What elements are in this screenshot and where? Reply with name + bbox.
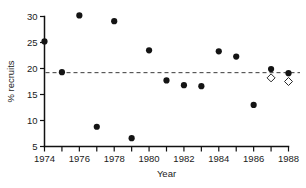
data-point-open-diamond bbox=[267, 74, 275, 82]
data-point-filled bbox=[146, 47, 152, 53]
data-point-filled bbox=[41, 38, 47, 44]
data-point-filled bbox=[129, 135, 135, 141]
y-axis-title: % recruits bbox=[5, 60, 16, 102]
x-axis-title: Year bbox=[157, 168, 176, 179]
data-point-open-diamond bbox=[285, 78, 293, 86]
y-tick-label: 30 bbox=[27, 11, 38, 22]
x-tick-label: 1980 bbox=[139, 153, 160, 164]
data-point-filled bbox=[181, 82, 187, 88]
data-point-filled bbox=[111, 18, 117, 24]
x-tick-label: 1988 bbox=[278, 153, 299, 164]
x-tick-label: 1982 bbox=[173, 153, 194, 164]
y-tick-label: 20 bbox=[27, 63, 38, 74]
x-tick-label: 1984 bbox=[208, 153, 229, 164]
y-tick-label: 15 bbox=[27, 89, 38, 100]
chart-canvas: 5101520253019741976197819801982198419861… bbox=[0, 0, 306, 188]
data-point-filled bbox=[285, 70, 291, 76]
x-tick-label: 1978 bbox=[104, 153, 125, 164]
data-point-filled bbox=[198, 83, 204, 89]
data-point-filled bbox=[59, 69, 65, 75]
data-point-filled bbox=[76, 12, 82, 18]
data-point-filled bbox=[233, 53, 239, 59]
y-tick-label: 10 bbox=[27, 115, 38, 126]
y-tick-label: 5 bbox=[32, 141, 37, 152]
x-tick-label: 1974 bbox=[34, 153, 55, 164]
y-tick-label: 25 bbox=[27, 37, 38, 48]
data-point-filled bbox=[216, 48, 222, 54]
data-point-filled bbox=[94, 124, 100, 130]
x-tick-label: 1976 bbox=[69, 153, 90, 164]
data-point-filled bbox=[251, 102, 257, 108]
x-tick-label: 1986 bbox=[243, 153, 264, 164]
scatter-chart-figure: 5101520253019741976197819801982198419861… bbox=[0, 0, 306, 188]
data-point-filled bbox=[163, 77, 169, 83]
data-point-filled bbox=[268, 66, 274, 72]
